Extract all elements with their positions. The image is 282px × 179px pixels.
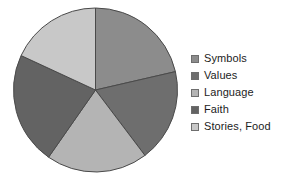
legend-swatch-icon <box>191 55 199 63</box>
legend-swatch-icon <box>191 89 199 97</box>
legend-item[interactable]: Stories, Food <box>191 118 281 135</box>
legend-item-label: Faith <box>204 104 229 115</box>
legend-item-label: Values <box>204 70 237 81</box>
legend-item[interactable]: Symbols <box>191 50 281 67</box>
legend-swatch-icon <box>191 123 199 131</box>
pie-slice-group <box>14 8 178 172</box>
legend-swatch-icon <box>191 72 199 80</box>
legend-item-label: Symbols <box>204 53 247 64</box>
legend-item[interactable]: Values <box>191 67 281 84</box>
legend-item-label: Language <box>204 87 254 98</box>
chart-legend: Symbols Values Language Faith Stories, F… <box>191 50 281 135</box>
legend-swatch-icon <box>191 106 199 114</box>
legend-item-label: Stories, Food <box>204 121 271 132</box>
legend-item[interactable]: Language <box>191 84 281 101</box>
pie-chart-figure: Symbols Values Language Faith Stories, F… <box>0 0 282 179</box>
legend-item[interactable]: Faith <box>191 101 281 118</box>
